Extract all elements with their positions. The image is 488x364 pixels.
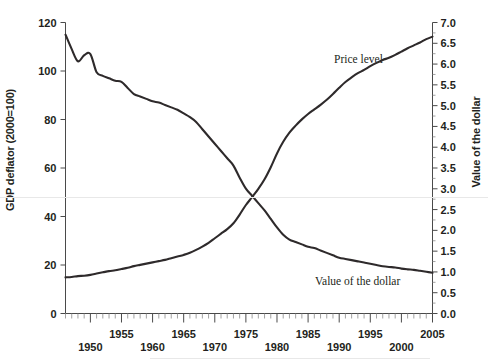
tick-label: 6.0 xyxy=(441,58,456,70)
x-axis: 1950195519601965197019751980198519901995… xyxy=(66,314,445,353)
tick-label: 1990 xyxy=(327,341,351,353)
tick-label: 120 xyxy=(38,17,56,29)
tick-label: 2005 xyxy=(420,328,444,340)
tick-label: 20 xyxy=(44,259,56,271)
tick-label: 1995 xyxy=(358,328,382,340)
tick-label: 4.0 xyxy=(441,141,456,153)
tick-label: 60 xyxy=(44,162,56,174)
tick-label: 2000 xyxy=(389,341,413,353)
tick-label: 80 xyxy=(44,114,56,126)
left-axis: 020406080100120 xyxy=(38,17,65,320)
series-line-value-of-the-dollar xyxy=(66,35,433,273)
tick-label: 1985 xyxy=(296,328,320,340)
data-series-group xyxy=(66,35,433,278)
tick-label: 1.5 xyxy=(441,245,456,257)
tick-label: 1965 xyxy=(171,328,195,340)
tick-label: 1955 xyxy=(109,328,133,340)
tick-label: 0.5 xyxy=(441,287,456,299)
tick-label: 1.0 xyxy=(441,266,456,278)
tick-label: 5.5 xyxy=(441,79,456,91)
chart-plot-area: 020406080100120 0.00.51.01.52.02.53.03.5… xyxy=(0,0,488,364)
tick-label: 1960 xyxy=(140,341,164,353)
tick-label: 3.0 xyxy=(441,183,456,195)
chart-figure: GDP deflator (2000=100) Value of the dol… xyxy=(0,0,488,364)
tick-label: 0.0 xyxy=(441,308,456,320)
tick-label: 2.0 xyxy=(441,224,456,236)
tick-label: 2.5 xyxy=(441,204,456,216)
tick-label: 1970 xyxy=(203,341,227,353)
tick-label: 1980 xyxy=(265,341,289,353)
tick-label: 100 xyxy=(38,65,56,77)
right-axis: 0.00.51.01.52.02.53.03.54.04.55.05.56.06… xyxy=(433,17,456,320)
tick-label: 6.5 xyxy=(441,37,456,49)
tick-label: 4.5 xyxy=(441,120,456,132)
tick-label: 40 xyxy=(44,211,56,223)
tick-label: 7.0 xyxy=(441,17,456,29)
series-line-price-level xyxy=(66,37,433,278)
tick-label: 0 xyxy=(50,308,56,320)
tick-label: 1950 xyxy=(78,341,102,353)
tick-label: 3.5 xyxy=(441,162,456,174)
tick-label: 1975 xyxy=(234,328,258,340)
tick-label: 5.0 xyxy=(441,100,456,112)
